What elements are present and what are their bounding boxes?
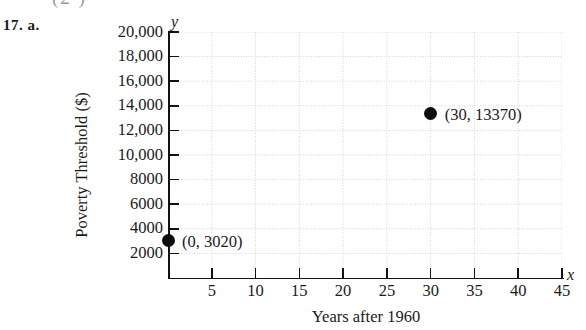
- x-axis-tick-label: 15: [279, 283, 319, 300]
- exercise-number-label: 17. a.: [3, 17, 40, 34]
- y-axis-tick: [168, 253, 179, 255]
- y-axis-tick-label: 8000: [130, 171, 163, 188]
- x-axis-tick-label: 40: [498, 283, 538, 300]
- x-axis-tick: [561, 268, 563, 279]
- y-axis-tick: [168, 56, 179, 58]
- x-axis-tick-label: 45: [542, 283, 582, 300]
- y-axis-tick: [168, 31, 179, 33]
- y-axis-tick: [168, 80, 179, 82]
- y-axis-tick: [168, 105, 179, 107]
- textbook-figure-page: (2 ) 17. a. Poverty Threshold ($) y x 20…: [0, 0, 586, 330]
- data-point-label: (30, 13370): [445, 107, 522, 124]
- data-point-label: (0, 3020): [182, 234, 243, 251]
- x-axis-tick: [430, 268, 432, 279]
- y-axis-variable-symbol: y: [171, 13, 178, 31]
- x-axis-tick-label: 35: [454, 283, 494, 300]
- x-axis-tick: [342, 268, 344, 279]
- y-axis-tick-labels: 200040006000800010,00012,00014,00016,000…: [85, 0, 163, 330]
- x-axis-tick-label: 30: [411, 283, 451, 300]
- y-axis-tick-label: 10,000: [118, 147, 163, 164]
- x-axis-tick: [386, 268, 388, 279]
- x-axis-tick: [255, 268, 257, 279]
- x-axis-line: [168, 278, 564, 280]
- y-axis-tick: [168, 203, 179, 205]
- x-axis-tick: [474, 268, 476, 279]
- y-axis-tick-label: 2000: [130, 245, 163, 262]
- x-axis-tick: [211, 268, 213, 279]
- x-axis-tick-label: 20: [323, 283, 363, 300]
- y-axis-tick: [168, 179, 179, 181]
- x-axis-tick-label: 10: [236, 283, 276, 300]
- x-axis-tick: [517, 268, 519, 279]
- x-axis-tick: [299, 268, 301, 279]
- y-axis-tick: [168, 130, 179, 132]
- data-point[interactable]: [162, 234, 175, 247]
- x-axis-tick-label: 5: [192, 283, 232, 300]
- y-axis-tick: [168, 154, 179, 156]
- y-axis-tick-label: 16,000: [118, 73, 163, 90]
- y-axis-tick: [168, 228, 179, 230]
- y-axis-tick-label: 20,000: [118, 24, 163, 41]
- y-axis-tick-label: 6000: [130, 196, 163, 213]
- x-axis-title: Years after 1960: [168, 307, 564, 327]
- y-axis-tick-label: 14,000: [118, 97, 163, 114]
- y-axis-tick-label: 4000: [130, 220, 163, 237]
- y-axis-tick-label: 12,000: [118, 122, 163, 139]
- x-axis-tick-label: 25: [367, 283, 407, 300]
- y-axis-tick-label: 18,000: [118, 48, 163, 65]
